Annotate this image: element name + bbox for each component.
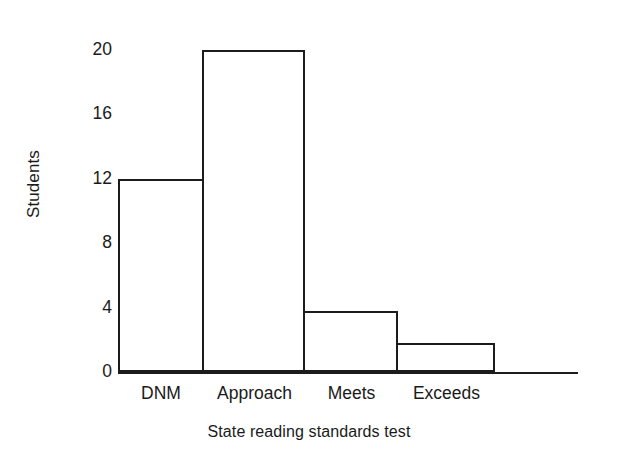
bar-dnm (118, 179, 204, 372)
bar-chart: Students 048121620 DNMApproachMeetsExcee… (0, 0, 618, 461)
x-axis-tick-label: Exceeds (398, 385, 495, 403)
x-axis-tick-label: DNM (118, 385, 204, 403)
plot-area: DNMApproachMeetsExceeds (0, 0, 618, 461)
bar-exceeds (396, 343, 496, 372)
bar-approach (202, 50, 306, 372)
x-axis-line (118, 372, 578, 374)
x-axis-tick-label: Approach (204, 385, 305, 403)
x-axis-tick-label: Meets (305, 385, 398, 403)
x-axis-title: State reading standards test (0, 423, 618, 441)
bar-meets (303, 311, 399, 372)
